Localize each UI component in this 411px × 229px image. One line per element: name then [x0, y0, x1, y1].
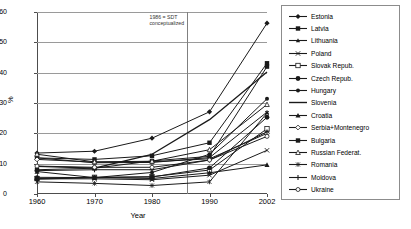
series-estonia	[34, 21, 269, 156]
legend-item-slovak-repub-[interactable]: Slovak Repub.	[282, 60, 399, 72]
legend-item-label: Romania	[311, 161, 337, 168]
y-axis-label: %	[6, 96, 15, 103]
plot-area	[37, 12, 267, 194]
y-tick-label: 50	[0, 38, 7, 45]
legend-item-bulgaria[interactable]: Bulgaria	[282, 134, 399, 146]
legend-box: EstoniaLatviaLithuaniaPolandSlovak Repub…	[281, 5, 400, 200]
circle-small-marker-icon	[288, 85, 308, 96]
triangle-open-marker-icon	[288, 147, 308, 158]
legend-item-label: Slovak Repub.	[311, 62, 354, 69]
legend-item-label: Czech Repub.	[311, 75, 353, 82]
y-tick-label: 30	[0, 99, 7, 106]
square-filled-marker-icon	[288, 135, 308, 146]
legend-item-romania[interactable]: Romania	[282, 159, 399, 171]
legend-item-label: Bulgaria	[311, 137, 335, 144]
circle-open-marker-icon	[288, 184, 308, 195]
legend-item-ukraine[interactable]: Ukraine	[282, 183, 399, 195]
legend-item-label: Latvia	[311, 25, 329, 32]
legend-item-russian-federat-[interactable]: Russian Federat.	[282, 146, 399, 158]
sdt-annotation-text: 1986 = SDT conceptualized	[150, 14, 185, 26]
diamond-marker-icon	[288, 11, 308, 22]
legend-item-label: Serbia+Montenegro	[311, 124, 369, 131]
legend-item-latvia[interactable]: Latvia	[282, 22, 399, 34]
line-only-marker-icon	[288, 97, 308, 108]
x-tick-label: 1980	[132, 198, 172, 206]
x-tick-label: 1970	[75, 198, 115, 206]
x-tick-label: 1960	[17, 198, 57, 206]
legend-item-estonia[interactable]: Estonia	[282, 10, 399, 22]
legend-item-label: Croatia	[311, 112, 332, 119]
circle-filled-marker-icon	[288, 73, 308, 84]
legend-item-hungary[interactable]: Hungary	[282, 84, 399, 96]
legend-item-croatia[interactable]: Croatia	[282, 109, 399, 121]
triangle-small-marker-icon	[288, 35, 308, 46]
plus-marker-icon	[288, 172, 308, 183]
legend-item-label: Poland	[311, 50, 332, 57]
y-tick-label: 60	[0, 8, 7, 15]
square-open-marker-icon	[288, 60, 308, 71]
legend-item-lithuania[interactable]: Lithuania	[282, 35, 399, 47]
y-tick-label: 10	[0, 160, 7, 167]
legend-item-moldova[interactable]: Moldova	[282, 171, 399, 183]
legend-item-label: Ukraine	[311, 186, 334, 193]
triangle-filled-marker-icon	[288, 110, 308, 121]
legend-item-label: Slovenia	[311, 99, 336, 106]
legend-item-czech-repub-[interactable]: Czech Repub.	[282, 72, 399, 84]
sdt-annotation-line-2: conceptualized	[150, 20, 185, 26]
y-tick-label: 20	[0, 129, 7, 136]
x-axis-label: Year	[0, 211, 276, 220]
legend-item-label: Hungary	[311, 87, 336, 94]
legend-item-label: Russian Federat.	[311, 149, 361, 156]
legend-item-label: Lithuania	[311, 37, 338, 44]
y-tick-label: 0	[0, 190, 7, 197]
y-tick-label: 40	[0, 69, 7, 76]
series-layer	[37, 12, 267, 194]
x-tick-label: 1990	[190, 198, 230, 206]
cross-marker-icon	[288, 48, 308, 59]
square-marker-icon	[288, 23, 308, 34]
legend-item-label: Moldova	[311, 174, 336, 181]
chart-panel: % Year 1986 = SDT conceptualized 0102030…	[0, 0, 276, 229]
legend-item-poland[interactable]: Poland	[282, 47, 399, 59]
asterisk-marker-icon	[288, 159, 308, 170]
diamond-open-marker-icon	[288, 122, 308, 133]
legend-item-serbia-montenegro[interactable]: Serbia+Montenegro	[282, 122, 399, 134]
legend-item-label: Estonia	[311, 13, 333, 20]
legend-item-slovenia[interactable]: Slovenia	[282, 97, 399, 109]
chart-figure: % Year 1986 = SDT conceptualized 0102030…	[0, 0, 411, 229]
